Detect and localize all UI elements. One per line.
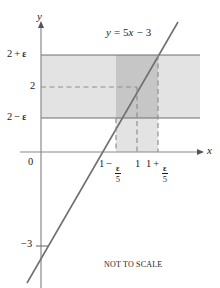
equation-y: y [106,26,111,38]
equation-minus: − [137,26,143,38]
x-tick-lower-numerator: ε [115,164,121,173]
x-tick-upper-op: + [153,158,159,169]
line-equation-label: y=5x−3 [106,27,151,38]
x-axis-label: x [207,145,212,156]
x-tick-lower-op: − [106,158,112,169]
y-tick-upper-base: 2 [7,48,12,59]
y-tick-lower-epsilon: ε [22,112,26,122]
x-tick-upper-denominator: 5 [162,174,168,183]
x-tick-lower-denominator: 5 [115,174,121,183]
origin-label: 0 [28,157,33,168]
x-axis-arrowhead [197,149,204,155]
y-tick-label-center: 2 [30,81,35,92]
diagram-canvas [0,0,220,288]
y-axis-label: y [37,11,42,22]
x-tick-label-upper: 1+ε5 [146,159,168,183]
equation-equals: = [114,26,120,38]
x-tick-lower-base: 1 [99,158,104,169]
x-tick-upper-numerator: ε [162,164,168,173]
y-tick-upper-op: + [14,48,20,59]
y-axis-arrowhead [38,21,44,28]
y-intercept-label: −3 [21,239,32,250]
x-tick-label-center: 1 [135,159,140,170]
y-tick-label-upper: 2+ε [7,49,26,60]
y-tick-lower-base: 2 [7,111,12,122]
equation-x: x [129,26,134,38]
x-tick-lower-fraction: ε5 [115,164,121,183]
x-tick-label-lower: 1−ε5 [99,159,121,183]
equation-intercept: 3 [146,26,152,38]
x-tick-upper-fraction: ε5 [162,164,168,183]
y-tick-label-lower: 2−ε [7,112,26,123]
y-tick-upper-epsilon: ε [22,49,26,59]
not-to-scale-note: NOT TO SCALE [104,261,162,269]
y-tick-lower-op: − [14,111,20,122]
limit-definition-diagram: y x 0 2+ε 2 2−ε −3 1−ε5 1 1+ε5 y=5x−3 NO… [0,0,220,288]
x-tick-upper-base: 1 [146,158,151,169]
